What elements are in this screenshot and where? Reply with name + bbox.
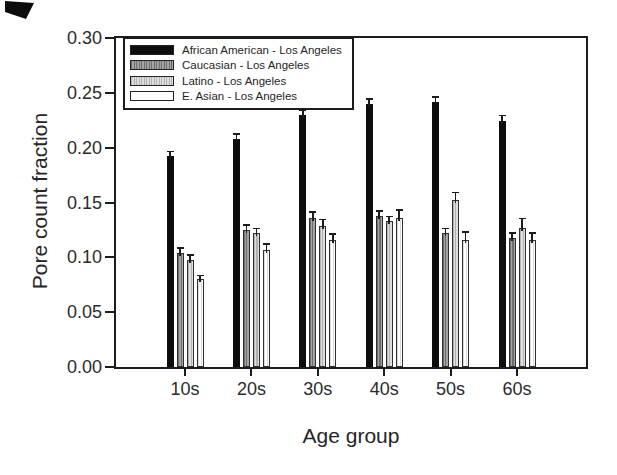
legend-label: Latino - Los Angeles (182, 75, 286, 87)
y-tick-label: 0.05 (52, 303, 102, 321)
error-bar-stem (521, 218, 523, 231)
error-bar-cap (452, 192, 459, 194)
error-bar-stem (398, 209, 400, 221)
bar (376, 216, 383, 367)
bar (529, 240, 536, 367)
bar (187, 260, 194, 367)
error-bar-cap (519, 218, 526, 220)
x-tick-label: 60s (495, 380, 539, 398)
error-bar-cap (197, 275, 204, 277)
y-tick (105, 256, 114, 258)
bar (263, 250, 270, 367)
y-tick (105, 311, 114, 313)
bar (233, 139, 240, 367)
bar (197, 279, 204, 367)
y-axis-title: Pore count fraction (28, 113, 52, 289)
x-tick (250, 369, 252, 376)
x-tick-label: 30s (296, 380, 340, 398)
error-bar-cap (499, 115, 506, 117)
error-bar-cap (253, 228, 260, 230)
error-bar-cap (366, 98, 373, 100)
legend: African American - Los AngelesCaucasian … (123, 37, 354, 110)
y-tick-label: 0.00 (52, 358, 102, 376)
error-bar-cap (329, 233, 336, 235)
bar (253, 233, 260, 367)
legend-swatch-hatched-light-gray (130, 76, 174, 86)
bar (329, 240, 336, 367)
bar (462, 240, 469, 367)
bar (442, 233, 449, 367)
x-tick (317, 369, 319, 376)
error-bar-cap (376, 210, 383, 212)
error-bar-cap (396, 209, 403, 211)
legend-swatch-hatched-dark-gray (130, 60, 174, 70)
error-bar-stem (531, 232, 533, 243)
bar (499, 121, 506, 367)
error-bar-cap (177, 247, 184, 249)
error-bar-cap (167, 151, 174, 153)
bar (319, 226, 326, 367)
error-bar-cap (233, 133, 240, 135)
legend-label: African American - Los Angeles (182, 44, 342, 56)
bar (519, 228, 526, 367)
legend-item: E. Asian - Los Angeles (130, 89, 347, 105)
x-tick-label: 50s (429, 380, 473, 398)
x-tick (383, 369, 385, 376)
legend-swatch-solid-black (130, 45, 174, 55)
error-bar-cap (386, 216, 393, 218)
bar (299, 115, 306, 367)
bar (243, 230, 250, 367)
legend-label: E. Asian - Los Angeles (182, 90, 297, 102)
legend-item: African American - Los Angeles (130, 42, 347, 58)
y-tick (105, 202, 114, 204)
error-bar-cap (529, 232, 536, 234)
bar (366, 104, 373, 367)
y-tick (105, 37, 114, 39)
error-bar-cap (319, 219, 326, 221)
x-tick-label: 20s (229, 380, 273, 398)
bar (432, 102, 439, 367)
x-tick (450, 369, 452, 376)
legend-swatch-white (130, 91, 174, 101)
x-tick-label: 10s (163, 380, 207, 398)
x-tick (516, 369, 518, 376)
y-tick-label: 0.15 (52, 194, 102, 212)
error-bar-cap (509, 232, 516, 234)
bar (309, 218, 316, 367)
y-tick-label: 0.30 (52, 29, 102, 47)
bar (167, 156, 174, 367)
bar (386, 221, 393, 367)
y-tick (105, 366, 114, 368)
x-tick (184, 369, 186, 376)
x-axis-title: Age group (303, 424, 400, 448)
bar (177, 253, 184, 367)
x-tick-label: 40s (362, 380, 406, 398)
error-bar-cap (432, 96, 439, 98)
scan-corner-artifact (3, 0, 43, 22)
y-tick-label: 0.10 (52, 248, 102, 266)
error-bar-cap (243, 224, 250, 226)
error-bar-cap (187, 254, 194, 256)
legend-item: Caucasian - Los Angeles (130, 58, 347, 74)
error-bar-stem (465, 231, 467, 243)
error-bar-cap (442, 228, 449, 230)
error-bar-cap (309, 211, 316, 213)
error-bar-stem (455, 192, 457, 204)
figure: Pore count fraction African American - L… (0, 0, 617, 475)
legend-label: Caucasian - Los Angeles (182, 59, 309, 71)
error-bar-cap (462, 231, 469, 233)
y-tick (105, 92, 114, 94)
error-bar-cap (263, 243, 270, 245)
bar (509, 238, 516, 367)
y-tick (105, 147, 114, 149)
bar (396, 218, 403, 367)
y-tick-label: 0.25 (52, 84, 102, 102)
y-tick-label: 0.20 (52, 139, 102, 157)
legend-item: Latino - Los Angeles (130, 73, 347, 89)
bar (452, 200, 459, 367)
